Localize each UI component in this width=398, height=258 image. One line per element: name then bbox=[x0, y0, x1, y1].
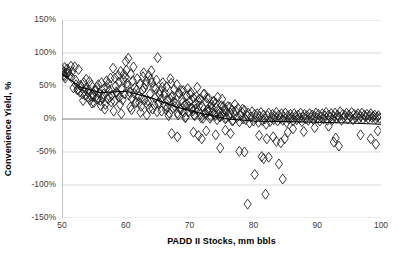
data-point-marker bbox=[357, 130, 364, 140]
data-point-marker bbox=[212, 130, 219, 140]
data-point-marker bbox=[263, 134, 270, 144]
data-point-marker bbox=[251, 169, 258, 179]
data-point-marker bbox=[300, 127, 307, 137]
scatter-plot-svg bbox=[62, 20, 381, 218]
data-point-marker bbox=[143, 110, 150, 120]
data-point-marker bbox=[109, 63, 116, 73]
data-point-marker bbox=[262, 189, 269, 199]
data-point-marker bbox=[118, 109, 125, 119]
x-axis-title: PADD II Stocks, mm bbls bbox=[62, 236, 381, 246]
data-point-marker bbox=[281, 134, 288, 144]
data-point-marker bbox=[130, 62, 137, 72]
data-point-marker bbox=[244, 199, 251, 209]
data-point-marker bbox=[125, 53, 132, 63]
data-point-marker bbox=[374, 126, 381, 136]
plot-area bbox=[62, 20, 381, 218]
data-point-marker bbox=[236, 146, 243, 156]
y-tick-label: 50% bbox=[16, 81, 56, 90]
data-point-marker bbox=[256, 131, 263, 141]
data-point-marker bbox=[190, 127, 197, 137]
data-point-marker bbox=[217, 143, 224, 153]
x-tick-label: 70 bbox=[170, 221, 210, 230]
data-point-marker bbox=[227, 129, 234, 139]
chart-container: Convenience Yield, % 150%100%50%0%-50%-1… bbox=[0, 0, 398, 258]
x-tick-label: 50 bbox=[42, 221, 82, 230]
data-point-marker bbox=[194, 82, 201, 92]
x-tick-label: 80 bbox=[233, 221, 273, 230]
y-axis-title: Convenience Yield, % bbox=[0, 0, 16, 258]
x-tick-label: 100 bbox=[361, 221, 398, 230]
data-point-marker bbox=[275, 159, 282, 169]
data-markers bbox=[62, 53, 381, 210]
data-point-marker bbox=[203, 126, 210, 136]
y-tick-label: -50% bbox=[16, 147, 56, 156]
data-point-marker bbox=[311, 123, 318, 133]
data-point-marker bbox=[279, 174, 286, 184]
data-point-marker bbox=[154, 53, 161, 63]
data-point-marker bbox=[222, 125, 229, 135]
x-tick-label: 90 bbox=[297, 221, 337, 230]
y-tick-label: -100% bbox=[16, 180, 56, 189]
y-tick-label: 100% bbox=[16, 48, 56, 57]
x-tick-label: 60 bbox=[106, 221, 146, 230]
data-point-marker bbox=[83, 74, 90, 84]
data-point-marker bbox=[110, 106, 117, 116]
data-point-marker bbox=[122, 57, 129, 67]
y-tick-label: 0% bbox=[16, 114, 56, 123]
data-point-marker bbox=[284, 127, 291, 137]
y-tick-label: 150% bbox=[16, 15, 56, 24]
